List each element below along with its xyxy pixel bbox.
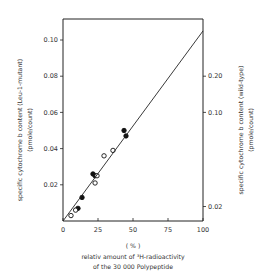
open-data-point — [69, 213, 73, 217]
y-axis-left-label-line1: specific cytochrome b content (Leu-1-mut… — [16, 59, 24, 201]
open-data-point — [93, 181, 97, 185]
y-left-tick-label: 0.08 — [44, 72, 58, 80]
y-left-tick-label: 0.04 — [44, 145, 58, 153]
y-axis-left-label-line2: (pmole/count) — [26, 108, 34, 152]
open-data-point — [102, 154, 106, 158]
x-tick-label: 0 — [61, 226, 65, 234]
x-unit-label: ( % ) — [126, 242, 141, 249]
open-data-point — [73, 208, 77, 212]
scatter-chart: 02550751000.020.040.060.080.100.020.100.… — [0, 0, 265, 278]
y-right-tick-label: 0.10 — [208, 109, 222, 117]
x-tick-label: 75 — [164, 226, 172, 234]
filled-data-point — [122, 128, 126, 132]
plot-frame — [63, 19, 203, 221]
y-left-tick-label: 0.02 — [44, 181, 58, 189]
data-points — [63, 31, 203, 221]
x-tick-label: 100 — [197, 226, 209, 234]
y-axis-right-label-line2: (pmole/count) — [247, 108, 255, 152]
y-left-tick-label: 0.10 — [44, 36, 58, 44]
regression-line — [63, 31, 203, 221]
axis-ticks: 02550751000.020.040.060.080.100.020.100.… — [44, 36, 223, 234]
x-tick-label: 25 — [94, 226, 102, 234]
y-right-tick-label: 0.02 — [208, 203, 222, 211]
x-axis-label-line2: of the 30 000 Polypeptide — [93, 263, 173, 271]
y-left-tick-label: 0.06 — [44, 109, 58, 117]
y-right-tick-label: 0.20 — [208, 72, 222, 80]
x-axis-label-line1: relativ amount of ³H-radioactivity — [81, 253, 185, 261]
y-axis-right-label-line1: specific cytochrome b content (wild-type… — [237, 66, 245, 195]
x-tick-label: 50 — [129, 226, 137, 234]
